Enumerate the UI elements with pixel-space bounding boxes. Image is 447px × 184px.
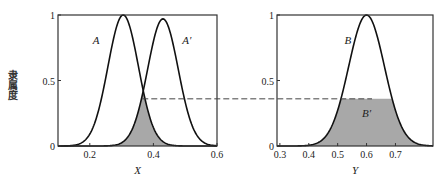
y-tick-label: 0.5: [43, 76, 56, 87]
curve-label: B: [344, 34, 351, 46]
x-tick-label: 0.4: [303, 149, 316, 160]
y-tick-label: 0: [269, 141, 274, 152]
x-tick-label: 0.6: [360, 149, 373, 160]
x-tick-label: 0.6: [211, 149, 224, 160]
y-axis-title: 隶属度: [7, 69, 18, 101]
x-tick-label: 0.4: [147, 149, 160, 160]
y-tick-label: 0: [50, 141, 55, 152]
x-tick-label: 0.7: [389, 149, 402, 160]
curve-label: A: [92, 34, 100, 46]
right-panel: BB′0.30.40.50.60.700.51Y: [262, 10, 434, 176]
x-axis-title: X: [133, 164, 142, 176]
left-panel: AA′0.20.40.600.51X: [43, 10, 224, 176]
y-tick-label: 1: [269, 10, 274, 21]
shaded-intersection-area: [58, 92, 217, 146]
x-axis-title: Y: [352, 164, 360, 176]
clipped-label: B′: [362, 107, 372, 119]
chart-figure: 隶属度 AA′0.20.40.600.51X BB′0.30.40.50.60.…: [0, 0, 447, 184]
curve-label: A′: [181, 34, 192, 46]
x-tick-label: 0.3: [274, 149, 287, 160]
x-tick-label: 0.5: [331, 149, 344, 160]
y-tick-label: 0.5: [262, 76, 275, 87]
y-tick-label: 1: [50, 10, 55, 21]
x-tick-label: 0.2: [84, 149, 97, 160]
